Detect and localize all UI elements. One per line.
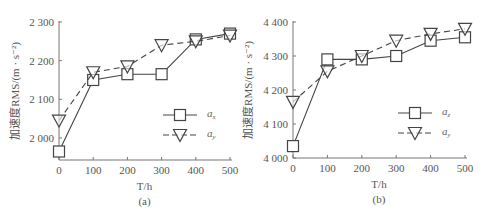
legend-item-a-z: az <box>398 105 451 119</box>
y-tick-label: 4 100 <box>263 118 288 130</box>
x-tick-label: 300 <box>388 162 405 174</box>
triangle-down-marker <box>287 96 300 108</box>
square-marker <box>410 108 421 119</box>
legend-label: ay <box>207 127 217 141</box>
triangle-down-marker <box>155 40 168 52</box>
y-tick-label: 2 000 <box>29 132 54 144</box>
x-tick-label: 500 <box>457 162 474 174</box>
y-tick-label: 4 000 <box>263 152 288 164</box>
square-marker <box>288 141 299 152</box>
y-tick-label: 4 300 <box>263 50 288 62</box>
y-tick-label: 4 400 <box>263 16 288 28</box>
panel-label: (b) <box>373 193 386 206</box>
x-tick-label: 500 <box>222 164 239 176</box>
panel-label: (a) <box>138 195 151 208</box>
x-tick-label: 200 <box>354 162 371 174</box>
chart-panel-a: 2 0002 1002 2002 3000100200300400500T/h(… <box>8 16 239 208</box>
legend-item-a-y: ay <box>398 125 452 140</box>
y-tick-label: 4 200 <box>263 84 288 96</box>
legend-label: ay <box>442 125 452 139</box>
x-tick-label: 300 <box>153 164 170 176</box>
triangle-down-marker <box>53 115 66 127</box>
y-tick-label: 2 100 <box>29 93 54 105</box>
y-axis-title: 加速度RMS/(m · s⁻²) <box>241 41 255 139</box>
x-tick-label: 400 <box>422 162 439 174</box>
chart-panel-b: 4 0004 1004 2004 3004 400010020030040050… <box>241 16 474 206</box>
legend-item-a-x: ax <box>163 107 217 121</box>
square-marker <box>322 54 333 65</box>
series-a-y <box>287 23 472 108</box>
x-axis-title: T/h <box>371 178 387 190</box>
x-tick-label: 200 <box>119 164 136 176</box>
x-tick-label: 400 <box>188 164 205 176</box>
series-line <box>59 36 230 121</box>
series-line <box>59 34 230 152</box>
legend-item-a-y: ay <box>163 127 217 142</box>
y-axis-title: 加速度RMS/(m · s⁻²) <box>8 42 22 140</box>
triangle-down-marker <box>390 35 403 47</box>
square-marker <box>156 69 167 80</box>
y-tick-label: 2 200 <box>29 55 54 67</box>
x-tick-label: 100 <box>319 162 336 174</box>
y-tick-label: 2 300 <box>29 16 54 28</box>
square-marker <box>54 146 65 157</box>
legend-label: az <box>442 105 451 119</box>
x-tick-label: 100 <box>85 164 102 176</box>
square-marker <box>175 110 186 121</box>
x-tick-label: 0 <box>56 164 62 176</box>
square-marker <box>391 51 402 62</box>
x-tick-label: 0 <box>290 162 296 174</box>
x-axis-title: T/h <box>137 180 153 192</box>
chart-figure: 2 0002 1002 2002 3000100200300400500T/h(… <box>0 0 488 218</box>
legend-label: ax <box>207 107 217 121</box>
series-line <box>293 37 465 146</box>
